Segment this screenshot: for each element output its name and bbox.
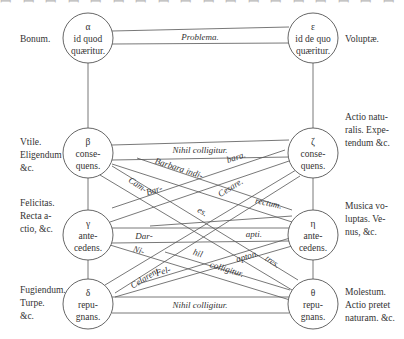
label-tres: tres. <box>263 253 281 270</box>
node-beta-line1: conse- <box>76 149 101 159</box>
band-problema-bottom <box>112 43 289 44</box>
label-cesare: Cesare. <box>216 176 245 199</box>
left-label-delta-line: &c. <box>20 310 66 323</box>
node-theta-line1: repu- <box>303 300 323 310</box>
node-eta-letter: η <box>311 219 316 229</box>
label-barbara-indi: Barbara indi- <box>154 156 204 181</box>
right-label-eta-line: luptas. Ve- <box>345 213 388 226</box>
node-epsilon-line1: id de quo <box>295 34 331 44</box>
left-label-gamma-line: Felicitas. <box>20 197 55 210</box>
label-apton: apton. <box>235 248 260 264</box>
right-label-zeta-line: ralis. Expe- <box>345 124 390 137</box>
node-delta-line2: gnans. <box>76 312 101 322</box>
node-alpha-line2: quærit­ur. <box>71 46 105 56</box>
band-camestres-a <box>100 175 292 290</box>
right-label-eta-line: Musica vo- <box>345 200 388 213</box>
label-rectum: rectum. <box>254 195 282 210</box>
node-theta-line2: gnans. <box>301 312 326 322</box>
right-label-zeta-line: Actio natu- <box>345 111 390 124</box>
node-zeta-line2: quens. <box>301 161 326 171</box>
left-label-gamma: Felicitas. Recta a- ctio, &c. <box>20 197 55 236</box>
right-label-epsilon-line: Voluptæ. <box>345 33 379 46</box>
node-gamma-line2: cedens. <box>74 243 102 253</box>
label-nihil-bottom: Nihil colligitur. <box>171 300 227 310</box>
label-problema: Problema. <box>180 32 218 42</box>
node-alpha-line1: id quod <box>74 34 103 44</box>
node-theta-letter: θ <box>311 288 316 298</box>
right-label-theta-line: naturam. &c. <box>345 312 395 325</box>
left-label-beta-line: Eligendum <box>20 149 62 162</box>
band-problema-top <box>112 27 289 31</box>
node-epsilon-line2: quæritur. <box>296 46 330 56</box>
left-label-delta-line: Fugiendum. <box>20 284 66 297</box>
left-label-beta-line: Vtile. <box>20 136 62 149</box>
right-label-theta-line: Actio pretet <box>345 299 395 312</box>
node-delta-line1: repu- <box>78 300 98 310</box>
node-gamma-line1: ante- <box>79 231 98 241</box>
label-nihil-top: Nihil colligitur. <box>171 145 227 155</box>
right-label-epsilon: Voluptæ. <box>345 33 379 46</box>
right-label-zeta-line: tendum &c. <box>345 137 390 150</box>
node-beta-letter: β <box>86 137 91 147</box>
node-zeta-letter: ζ <box>311 137 315 148</box>
node-alpha-letter: α <box>86 22 91 32</box>
label-bara: bara. <box>225 149 246 164</box>
label-hil: hil <box>192 247 204 259</box>
left-label-delta: Fugiendum. Turpe. &c. <box>20 284 66 323</box>
node-delta-letter: δ <box>86 288 91 298</box>
node-eta-line2: cedens. <box>299 243 327 253</box>
left-label-gamma-line: ctio, &c. <box>20 223 55 236</box>
label-apti: apti. <box>246 229 262 239</box>
label-ni: Ni- <box>131 243 146 256</box>
node-epsilon-letter: ε <box>311 22 315 32</box>
band-darapti-b <box>112 241 289 243</box>
left-label-beta-line: &c. <box>20 162 62 175</box>
right-label-eta-line: nus, &c. <box>345 226 388 239</box>
right-label-eta: Musica vo- luptas. Ve- nus, &c. <box>345 200 388 239</box>
label-dar: Dar- <box>134 231 152 241</box>
node-gamma-letter: γ <box>85 219 90 229</box>
node-eta-line1: ante- <box>304 231 323 241</box>
left-label-beta: Vtile. Eligendum &c. <box>20 136 62 175</box>
left-label-alpha-line: Bonum. <box>20 33 50 46</box>
node-zeta-line1: conse- <box>301 149 326 159</box>
right-label-theta: Molestum. Actio pretet naturam. &c. <box>345 286 395 325</box>
left-label-delta-line: Turpe. <box>20 297 66 310</box>
right-label-theta-line: Molestum. <box>345 286 395 299</box>
right-label-zeta: Actio natu- ralis. Expe- tendum &c. <box>345 111 390 150</box>
label-es: es. <box>196 205 210 219</box>
node-beta-line2: quens. <box>76 161 101 171</box>
left-label-gamma-line: Recta a- <box>20 210 55 223</box>
left-label-alpha: Bonum. <box>20 33 50 46</box>
